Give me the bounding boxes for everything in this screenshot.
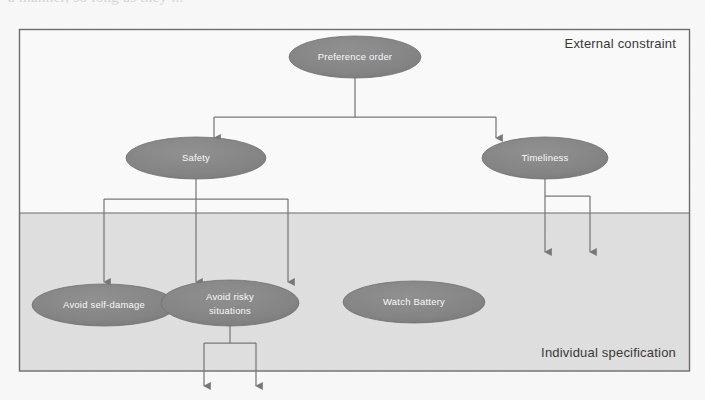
hierarchy-diagram: External constraint Individual specifica… [0,0,705,400]
node-avoid-risky-situations-shape[interactable] [161,280,299,326]
node-preference-order[interactable]: Preference order [289,36,421,78]
node-timeliness-label: Timeliness [521,152,568,163]
region-individual-label: Individual specification [541,345,676,360]
node-avoid-risky-situations-label-line2: situations [209,305,251,316]
node-avoid-risky-situations[interactable]: Avoid risky situations [161,280,299,326]
node-avoid-risky-situations-label-line1: Avoid risky [206,291,254,302]
node-watch-battery[interactable]: Watch Battery [343,281,485,323]
region-external-label: External constraint [565,36,677,51]
node-avoid-self-damage-label: Avoid self-damage [63,299,145,310]
node-timeliness[interactable]: Timeliness [482,137,608,179]
node-safety-label: Safety [182,152,210,163]
node-safety[interactable]: Safety [126,137,266,179]
node-avoid-self-damage[interactable]: Avoid self-damage [32,284,176,326]
node-preference-order-label: Preference order [318,51,393,62]
diagram-canvas: a manner, so long as they ... External c… [0,0,705,400]
node-watch-battery-label: Watch Battery [383,296,445,307]
